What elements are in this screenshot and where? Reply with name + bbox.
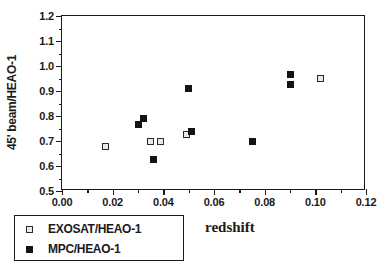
y-axis-minor-tick [59,29,63,30]
x-axis-tick [214,189,215,195]
x-axis-tick [62,189,63,195]
data-point [150,156,157,163]
y-axis-tick [56,66,62,67]
y-axis-tick [56,41,62,42]
x-axis-tick-label: 0.12 [356,196,377,208]
y-axis-tick [56,16,62,17]
x-axis-tick-label: 0.02 [102,196,123,208]
x-axis-tick-label: 0.04 [153,196,174,208]
x-axis-tick-label: 0.10 [305,196,326,208]
y-axis-tick-label: 0.6 [39,160,54,172]
x-axis-tick [163,189,164,195]
x-axis-minor-tick [341,189,342,193]
y-axis-tick-label: 0.7 [39,135,54,147]
scatter-chart-figure: 45' beam/HEAO-1 redshift 0.50.60.70.80.9… [0,0,382,265]
x-axis-minor-tick [87,189,88,193]
y-axis-tick-label: 1.1 [39,35,54,47]
x-axis-minor-tick [290,189,291,193]
x-axis-minor-tick [189,189,190,193]
legend-marker-icon [26,226,33,233]
x-axis-tick-label: 0.00 [52,196,73,208]
y-axis-minor-tick [59,129,63,130]
data-point [287,71,294,78]
data-point [317,75,324,82]
y-axis-minor-tick [59,54,63,55]
y-axis-tick [56,166,62,167]
x-axis-title: redshift [205,219,255,236]
x-axis-tick [366,189,367,195]
legend-label: MPC/HEAO-1 [48,242,120,256]
y-axis-minor-tick [59,154,63,155]
x-axis-tick-label: 0.08 [254,196,275,208]
y-axis-tick-label: 1.2 [39,10,54,22]
legend-marker-icon [26,246,33,253]
data-point [287,81,294,88]
data-point [249,138,256,145]
legend-entry: MPC/HEAO-1 [15,239,183,259]
y-axis-tick-label: 0.8 [39,110,54,122]
x-axis-minor-tick [239,189,240,193]
y-axis-tick [56,91,62,92]
data-point [188,128,195,135]
x-axis-tick [315,189,316,195]
y-axis-minor-tick [59,179,63,180]
legend-label: EXOSAT/HEAO-1 [48,222,141,236]
data-point [140,115,147,122]
x-axis-tick [265,189,266,195]
data-point [102,143,109,150]
data-point [185,85,192,92]
x-axis-tick [113,189,114,195]
data-point [135,121,142,128]
y-axis-title: 45' beam/HEAO-1 [4,15,20,190]
plot-area: 0.50.60.70.80.91.01.11.20.000.020.040.06… [61,15,365,190]
y-axis-tick-label: 1.0 [39,60,54,72]
data-point [157,138,164,145]
legend-entry: EXOSAT/HEAO-1 [15,219,183,239]
y-axis-minor-tick [59,104,63,105]
x-axis-minor-tick [138,189,139,193]
chart-legend: EXOSAT/HEAO-1MPC/HEAO-1 [14,215,184,261]
y-axis-minor-tick [59,79,63,80]
y-axis-tick [56,116,62,117]
y-axis-tick [56,141,62,142]
x-axis-tick-label: 0.06 [204,196,225,208]
data-point [147,138,154,145]
y-axis-tick-label: 0.9 [39,85,54,97]
